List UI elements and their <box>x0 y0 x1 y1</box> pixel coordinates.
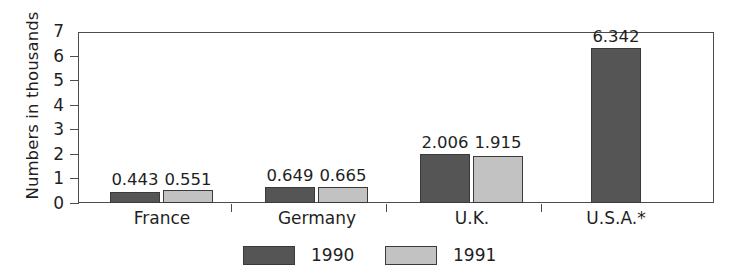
y-tick-label-3: 3 <box>42 121 64 138</box>
bar-value-uk-1991: 1.915 <box>463 135 533 152</box>
legend-swatch-1991-icon <box>385 246 437 265</box>
legend-label-1990: 1990 <box>311 247 354 264</box>
bar-germany-1990[interactable] <box>265 187 315 203</box>
y-tick-label-5: 5 <box>42 72 64 89</box>
legend-item-1990[interactable]: 1990 <box>243 246 354 265</box>
chart-legend: 1990 1991 <box>0 246 742 272</box>
y-tick-label-6: 6 <box>42 48 64 65</box>
y-tick-label-7: 7 <box>42 23 64 40</box>
y-tick-mark-0 <box>70 203 79 204</box>
legend-label-1991: 1991 <box>453 247 496 264</box>
bar-chart-figure: Numbers in thousands 0 1 2 3 4 5 6 7 0.4… <box>0 0 742 280</box>
bar-uk-1990[interactable] <box>420 154 470 203</box>
bar-value-usa-1990: 6.342 <box>581 29 651 46</box>
bar-germany-1991[interactable] <box>318 187 368 203</box>
legend-swatch-1990-icon <box>243 246 295 265</box>
bar-france-1991[interactable] <box>163 190 213 203</box>
bar-usa-1990[interactable] <box>591 48 641 203</box>
bar-value-germany-1991: 0.665 <box>308 168 378 185</box>
bar-france-1990[interactable] <box>110 192 160 203</box>
category-label-germany: Germany <box>247 210 387 227</box>
y-tick-label-2: 2 <box>42 146 64 163</box>
legend-item-1991[interactable]: 1991 <box>385 246 496 265</box>
y-tick-label-0: 0 <box>42 195 64 212</box>
y-tick-label-1: 1 <box>42 170 64 187</box>
bar-value-france-1991: 0.551 <box>153 172 223 189</box>
category-label-france: France <box>92 210 232 227</box>
bar-uk-1991[interactable] <box>473 156 523 203</box>
y-axis-tick-labels: 0 1 2 3 4 5 6 7 <box>36 0 64 280</box>
y-tick-label-4: 4 <box>42 97 64 114</box>
category-label-uk: U.K. <box>402 210 542 227</box>
category-label-usa: U.S.A.* <box>546 210 686 227</box>
